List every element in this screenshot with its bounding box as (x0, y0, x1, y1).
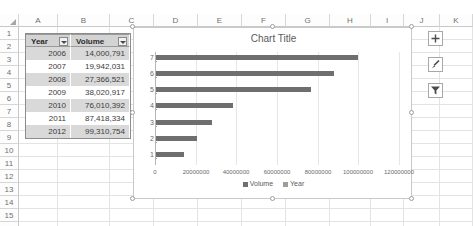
chart-legend-item[interactable]: Year (283, 180, 304, 187)
filter-dropdown-icon[interactable] (59, 37, 68, 46)
excel-worksheet[interactable]: ABCDEFGHIJK 12345678910111213141516 Year… (0, 0, 473, 226)
chart-resize-handle[interactable] (130, 110, 135, 115)
table-cell-volume[interactable]: 76,010,392 (71, 99, 130, 112)
chart-bar-volume[interactable] (156, 152, 184, 157)
cell-B13[interactable] (58, 183, 110, 196)
table-cell-year[interactable]: 2009 (26, 86, 71, 99)
cell-A14[interactable] (19, 196, 58, 209)
chart-resize-handle[interactable] (130, 196, 135, 201)
cell-B10[interactable] (58, 144, 110, 157)
chart-resize-handle[interactable] (409, 110, 414, 115)
column-header-I[interactable]: I (371, 14, 404, 27)
chart-bar-year[interactable] (156, 109, 157, 110)
cell-B12[interactable] (58, 170, 110, 183)
cell-K6[interactable] (440, 92, 473, 105)
row-header-13[interactable]: 13 (0, 183, 19, 196)
cell-B11[interactable] (58, 157, 110, 170)
column-header-A[interactable]: A (19, 14, 58, 27)
chart-object[interactable]: Chart Title 1234567 02000000040000000600… (133, 27, 412, 199)
column-header-row[interactable]: ABCDEFGHIJK (0, 14, 473, 27)
cell-E16[interactable] (198, 222, 242, 226)
filter-dropdown-icon[interactable] (118, 37, 127, 46)
chart-filters-button[interactable] (428, 83, 443, 98)
cell-A11[interactable] (19, 157, 58, 170)
cell-K14[interactable] (440, 196, 473, 209)
row-header-10[interactable]: 10 (0, 144, 19, 157)
cell-B16[interactable] (58, 222, 110, 226)
row-header-3[interactable]: 3 (0, 53, 19, 66)
chart-bar-volume[interactable] (156, 136, 197, 141)
chart-bar-year[interactable] (156, 61, 157, 62)
row-header-16[interactable]: 16 (0, 222, 19, 226)
row-header-2[interactable]: 2 (0, 40, 19, 53)
table-cell-year[interactable]: 2012 (26, 125, 71, 138)
cell-C15[interactable] (110, 209, 154, 222)
cell-K4[interactable] (440, 66, 473, 79)
column-header-H[interactable]: H (330, 14, 371, 27)
row-header-12[interactable]: 12 (0, 170, 19, 183)
chart-bar-volume[interactable] (156, 120, 212, 125)
chart-bar-year[interactable] (156, 93, 157, 94)
cell-B15[interactable] (58, 209, 110, 222)
cell-K13[interactable] (440, 183, 473, 196)
cell-H15[interactable] (330, 209, 371, 222)
table-cell-year[interactable]: 2007 (26, 60, 71, 73)
chart-bar-year[interactable] (156, 158, 157, 159)
table-cell-volume[interactable]: 99,310,754 (71, 125, 130, 138)
cell-K1[interactable] (440, 27, 473, 40)
cell-K12[interactable] (440, 170, 473, 183)
chart-resize-handle[interactable] (409, 196, 414, 201)
cell-D16[interactable] (154, 222, 198, 226)
cell-A10[interactable] (19, 144, 58, 157)
column-header-D[interactable]: D (154, 14, 198, 27)
chart-bar-volume[interactable] (156, 103, 233, 108)
table-cell-year[interactable]: 2006 (26, 47, 71, 60)
cell-A15[interactable] (19, 209, 58, 222)
column-header-K[interactable]: K (440, 14, 473, 27)
chart-bar-volume[interactable] (156, 71, 334, 76)
chart-resize-handle[interactable] (270, 24, 275, 29)
row-header-15[interactable]: 15 (0, 209, 19, 222)
row-header-4[interactable]: 4 (0, 66, 19, 79)
table-cell-year[interactable]: 2008 (26, 73, 71, 86)
table-cell-volume[interactable]: 87,418,334 (71, 112, 130, 125)
cell-I15[interactable] (371, 209, 404, 222)
cell-K7[interactable] (440, 105, 473, 118)
cell-A16[interactable] (19, 222, 58, 226)
chart-bar-volume[interactable] (156, 55, 358, 60)
cell-K2[interactable] (440, 40, 473, 53)
cell-G15[interactable] (286, 209, 330, 222)
chart-legend-item[interactable]: Volume (243, 180, 273, 187)
cell-C16[interactable] (110, 222, 154, 226)
cell-E15[interactable] (198, 209, 242, 222)
row-header-14[interactable]: 14 (0, 196, 19, 209)
table-cell-year[interactable]: 2010 (26, 99, 71, 112)
column-header-B[interactable]: B (58, 14, 110, 27)
cell-K11[interactable] (440, 157, 473, 170)
column-header-E[interactable]: E (198, 14, 242, 27)
cell-D15[interactable] (154, 209, 198, 222)
table-header-year[interactable]: Year (26, 34, 71, 47)
cell-F15[interactable] (242, 209, 286, 222)
cell-K3[interactable] (440, 53, 473, 66)
cell-I16[interactable] (371, 222, 404, 226)
chart-bar-year[interactable] (156, 77, 157, 78)
row-header-8[interactable]: 8 (0, 118, 19, 131)
table-cell-volume[interactable]: 38,020,917 (71, 86, 130, 99)
table-header-volume[interactable]: Volume (71, 34, 130, 47)
cell-K9[interactable] (440, 131, 473, 144)
cell-H16[interactable] (330, 222, 371, 226)
cell-K10[interactable] (440, 144, 473, 157)
chart-legend[interactable]: VolumeYear (134, 180, 413, 187)
cell-K15[interactable] (440, 209, 473, 222)
cell-J15[interactable] (404, 209, 440, 222)
row-header-5[interactable]: 5 (0, 79, 19, 92)
chart-resize-handle[interactable] (409, 24, 414, 29)
cell-B14[interactable] (58, 196, 110, 209)
table-cell-volume[interactable]: 19,942,031 (71, 60, 130, 73)
column-header-G[interactable]: G (286, 14, 330, 27)
chart-bar-year[interactable] (156, 142, 157, 143)
cell-K8[interactable] (440, 118, 473, 131)
chart-bar-year[interactable] (156, 126, 157, 127)
chart-resize-handle[interactable] (130, 24, 135, 29)
